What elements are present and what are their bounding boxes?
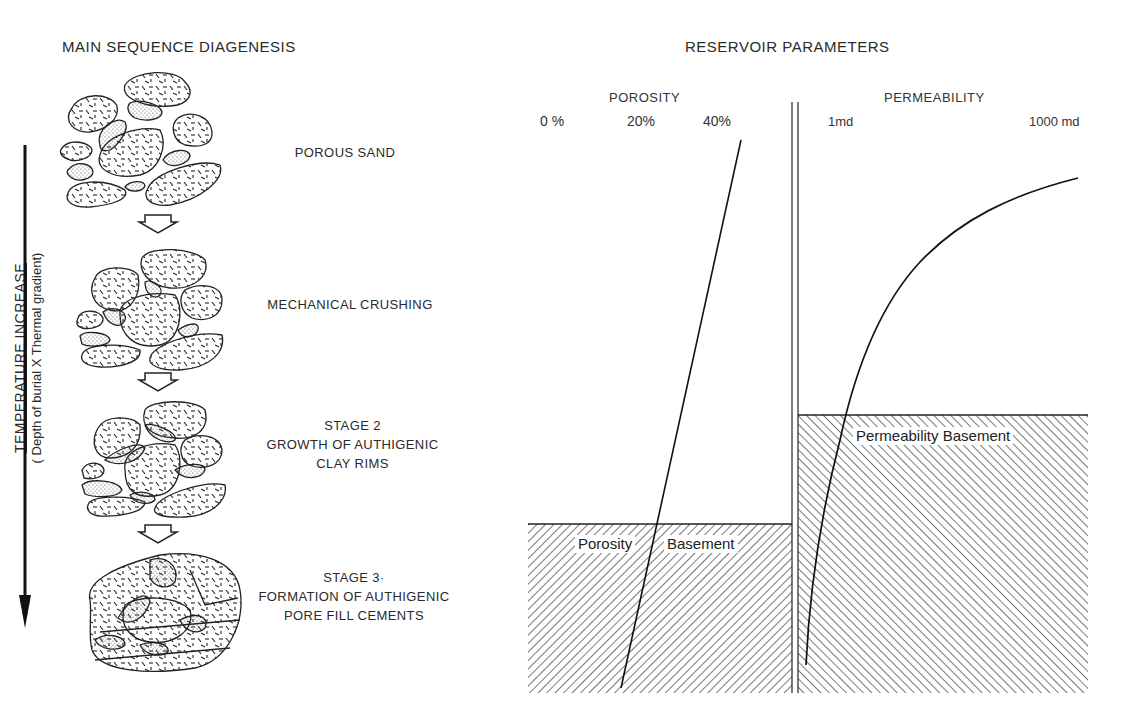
stage-arrow-icon <box>139 215 177 233</box>
pore-fill-cements-illustration <box>90 554 241 672</box>
diagram-graphics <box>0 0 1135 721</box>
porosity-basement-label-b: Basement <box>664 535 738 553</box>
clay-rims-illustration <box>82 402 225 517</box>
mechanical-crushing-illustration <box>77 250 223 371</box>
permeability-basement-label: Permeability Basement <box>853 427 1013 445</box>
porosity-basement-label-a: Porosity <box>575 535 635 553</box>
permeability-basement-zone <box>798 415 1088 693</box>
porosity-basement-zone <box>528 524 792 693</box>
temperature-arrow-icon <box>19 145 31 628</box>
porous-sand-grains-illustration <box>60 73 220 208</box>
stage-arrow-icon <box>139 373 177 391</box>
stage-arrow-icon <box>139 525 177 543</box>
